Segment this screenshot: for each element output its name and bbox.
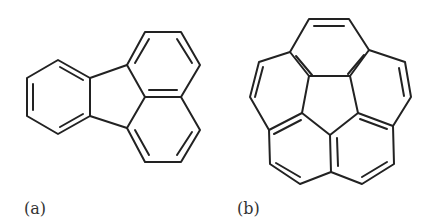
double-bond — [135, 39, 149, 63]
spoke-bond — [290, 52, 309, 76]
double-bond — [360, 119, 387, 129]
double-bond — [362, 162, 387, 177]
double-bond — [399, 68, 404, 96]
double-bond — [60, 67, 83, 80]
naphthalene-ring-top — [127, 32, 200, 97]
panel-label-b: (b) — [237, 199, 260, 218]
naphthalene-ring-bottom — [127, 97, 200, 162]
molecule-a-fluoranthene — [27, 32, 200, 162]
double-bond — [177, 39, 192, 63]
double-bond — [177, 132, 192, 155]
central-pentagon — [302, 76, 358, 135]
chemical-structures-diagram — [0, 0, 426, 224]
spoke-bond — [350, 50, 369, 76]
benzene-ring-left — [27, 60, 90, 134]
double-bond — [135, 130, 149, 155]
double-bond — [274, 120, 301, 134]
single-bond — [90, 65, 127, 78]
double-bond — [348, 55, 364, 74]
double-bond — [60, 114, 83, 127]
molecule-b-corannulene — [250, 19, 411, 184]
double-bond — [337, 138, 338, 166]
spoke-bond — [330, 135, 331, 172]
double-bond — [296, 56, 312, 75]
panel-label-a: (a) — [24, 199, 46, 218]
single-bond — [90, 116, 127, 128]
